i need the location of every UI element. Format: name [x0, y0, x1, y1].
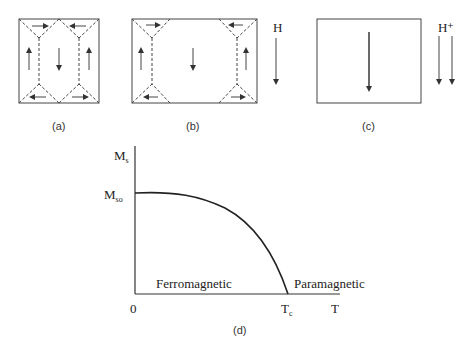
magnetic-domains-figure: (a) H (b) H⁺ (c) Ms Mso 0 Tc [0, 0, 468, 353]
y-tick-mso: Mso [104, 187, 123, 204]
region-ferromagnetic: Ferromagnetic [156, 276, 232, 291]
caption-b: (b) [186, 120, 199, 132]
origin-label: 0 [130, 301, 137, 316]
tc-label: Tc [281, 301, 293, 318]
y-axis-label: Ms [114, 148, 129, 165]
panel-c-single-domain [317, 19, 421, 103]
caption-c: (c) [362, 120, 375, 132]
panel-a-domains [19, 19, 99, 103]
caption-d: (d) [233, 324, 246, 336]
field-label-h: H [273, 20, 282, 35]
x-axis-label: T [331, 301, 339, 316]
ms-vs-t-graph: Ms Mso 0 Tc T Ferromagnetic Paramagnetic [104, 146, 365, 318]
region-paramagnetic: Paramagnetic [294, 276, 365, 291]
caption-a: (a) [52, 120, 65, 132]
field-label-h-plus: H⁺ [438, 20, 454, 35]
panel-b-domains [132, 19, 257, 103]
